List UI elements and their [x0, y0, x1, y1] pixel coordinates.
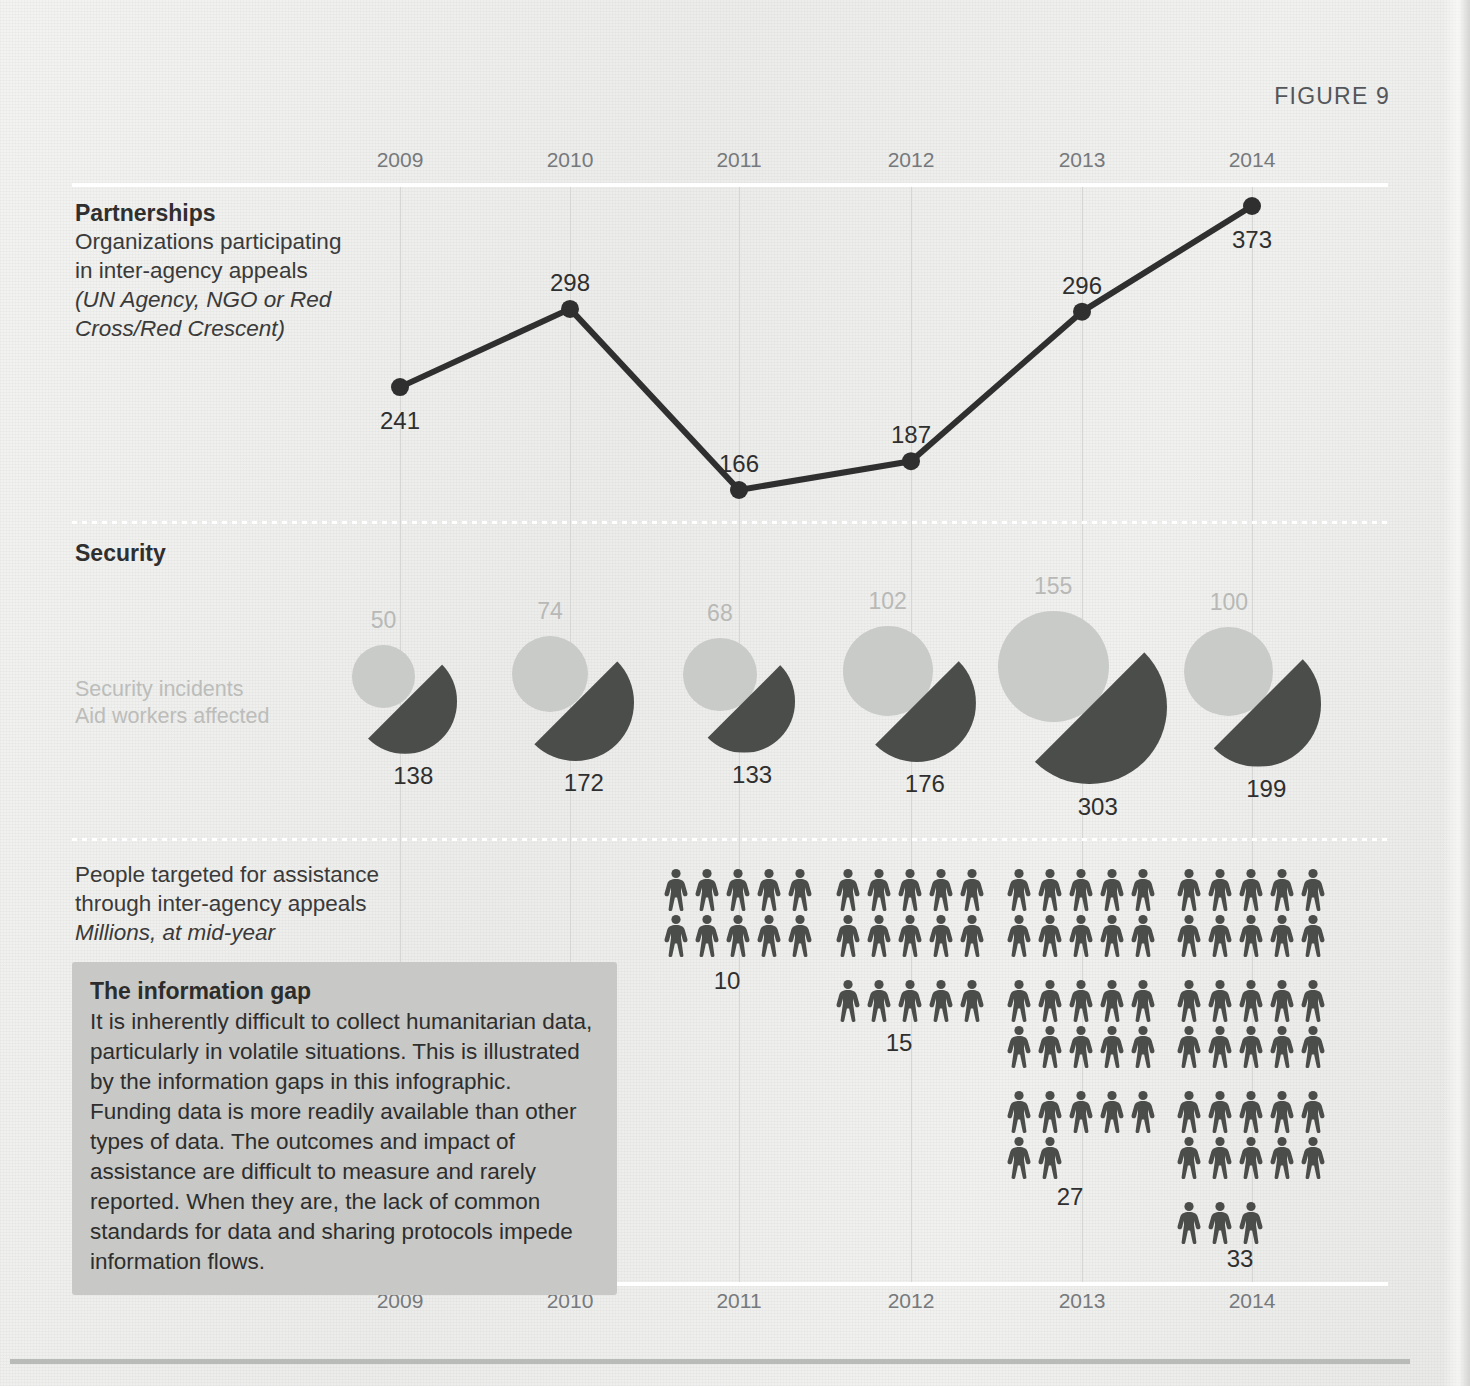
aid-workers-value-2012: 176	[905, 770, 945, 798]
person-icon	[1267, 914, 1297, 957]
information-gap-box: The information gap It is inherently dif…	[72, 962, 617, 1295]
aid-workers-value-2011: 133	[732, 761, 772, 789]
person-icon	[1004, 868, 1034, 911]
person-icon	[1004, 979, 1034, 1022]
security-incidents-circle-2009	[352, 645, 415, 708]
person-icon	[661, 868, 691, 911]
person-icon	[833, 979, 863, 1022]
person-icon	[1174, 1201, 1204, 1244]
pictogram-column-2013	[1004, 868, 1158, 1179]
person-icon	[1267, 1090, 1297, 1133]
pictogram-row	[1004, 979, 1158, 1022]
person-icon	[1066, 1090, 1096, 1133]
aid-workers-value-2010: 172	[564, 769, 604, 797]
person-icon	[957, 868, 987, 911]
person-icon	[1267, 1136, 1297, 1179]
person-icon	[1128, 868, 1158, 911]
person-icon	[1174, 1090, 1204, 1133]
person-icon	[785, 868, 815, 911]
person-icon	[1205, 1201, 1235, 1244]
person-icon	[1205, 979, 1235, 1022]
person-icon	[833, 868, 863, 911]
person-icon	[1128, 979, 1158, 1022]
pictogram-row	[661, 868, 815, 911]
person-icon	[1298, 1025, 1328, 1068]
pictogram-column-2014	[1174, 868, 1328, 1244]
pictogram-row-gap	[1004, 960, 1158, 976]
line-value-label-2009: 241	[380, 407, 420, 435]
person-icon	[1128, 1025, 1158, 1068]
person-icon	[1267, 1025, 1297, 1068]
person-icon	[1236, 914, 1266, 957]
security-legend-aidworkers: Aid workers affected	[75, 703, 375, 730]
pictogram-row-gap	[1174, 1071, 1328, 1087]
footer-rule	[10, 1359, 1410, 1364]
aid-workers-value-2013: 303	[1078, 793, 1118, 821]
pictogram-value-2014: 33	[1227, 1245, 1254, 1273]
pictogram-row	[833, 868, 987, 911]
person-icon	[864, 979, 894, 1022]
year-label-2012: 2012	[888, 1289, 935, 1313]
people-caption: People targeted for assistance through i…	[75, 860, 435, 947]
person-icon	[1236, 868, 1266, 911]
pictogram-row-gap	[1004, 1071, 1158, 1087]
person-icon	[1298, 914, 1328, 957]
person-icon	[723, 914, 753, 957]
people-line3: Millions, at mid-year	[75, 920, 275, 945]
person-icon	[723, 868, 753, 911]
person-icon	[957, 914, 987, 957]
line-value-label-2014: 373	[1232, 226, 1272, 254]
person-icon	[1004, 914, 1034, 957]
security-caption: Security	[75, 540, 166, 567]
person-icon	[1298, 1136, 1328, 1179]
pictogram-row	[1174, 1025, 1328, 1068]
person-icon	[1004, 1025, 1034, 1068]
line-series-points	[391, 197, 1261, 499]
person-icon	[1267, 979, 1297, 1022]
person-icon	[1097, 979, 1127, 1022]
person-icon	[1035, 1136, 1065, 1179]
person-icon	[1174, 1136, 1204, 1179]
information-gap-title: The information gap	[90, 978, 595, 1005]
person-icon	[1035, 868, 1065, 911]
pictogram-column-2011	[661, 868, 815, 957]
person-icon	[1298, 1090, 1328, 1133]
pictogram-value-2012: 15	[886, 1029, 913, 1057]
line-point-2014	[1243, 197, 1261, 215]
person-icon	[1205, 868, 1235, 911]
person-icon	[1174, 868, 1204, 911]
year-label-2013: 2013	[1059, 1289, 1106, 1313]
person-icon	[1097, 1090, 1127, 1133]
person-icon	[1035, 1090, 1065, 1133]
person-icon	[1205, 1025, 1235, 1068]
person-icon	[1035, 914, 1065, 957]
security-incidents-value-2012: 102	[868, 588, 906, 615]
pictogram-row	[1174, 914, 1328, 957]
people-line2: through inter-agency appeals	[75, 891, 366, 916]
person-icon	[1298, 979, 1328, 1022]
line-value-label-2010: 298	[550, 269, 590, 297]
pictogram-row	[1004, 1090, 1158, 1133]
line-value-label-2011: 166	[719, 450, 759, 478]
person-icon	[864, 868, 894, 911]
pictogram-row	[1174, 1090, 1328, 1133]
security-incidents-value-2011: 68	[707, 600, 733, 627]
person-icon	[833, 914, 863, 957]
year-label-2014: 2014	[1229, 1289, 1276, 1313]
pictogram-row-gap	[1174, 960, 1328, 976]
pictogram-row	[1174, 979, 1328, 1022]
person-icon	[1236, 1136, 1266, 1179]
person-icon	[1205, 1136, 1235, 1179]
person-icon	[1267, 868, 1297, 911]
year-label-2011: 2011	[716, 1289, 761, 1313]
line-point-2013	[1073, 303, 1091, 321]
person-icon	[692, 914, 722, 957]
person-icon	[1004, 1090, 1034, 1133]
person-icon	[1236, 1090, 1266, 1133]
person-icon	[1035, 1025, 1065, 1068]
security-incidents-value-2014: 100	[1210, 589, 1248, 616]
person-icon	[1236, 1025, 1266, 1068]
person-icon	[754, 868, 784, 911]
line-point-2010	[561, 300, 579, 318]
security-incidents-value-2009: 50	[371, 607, 397, 634]
